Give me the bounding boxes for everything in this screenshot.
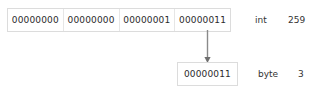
int-type-label: int xyxy=(255,16,267,25)
conversion-diagram: 00000000 00000000 00000001 00000011 int … xyxy=(0,0,321,98)
int-value-label: 259 xyxy=(288,16,305,25)
int-octet-cell-4: 00000011 xyxy=(175,9,230,31)
byte-value-label: 3 xyxy=(298,70,304,79)
int-bits-box: 00000000 00000000 00000001 00000011 xyxy=(7,8,231,32)
byte-bits-box: 00000011 xyxy=(177,62,238,86)
byte-octet-cell-1: 00000011 xyxy=(178,63,237,85)
int-octet-cell-3: 00000001 xyxy=(120,9,176,31)
int-octet-cell-1: 00000000 xyxy=(8,9,64,31)
down-arrow-icon xyxy=(198,30,218,64)
int-octet-cell-2: 00000000 xyxy=(64,9,120,31)
byte-type-label: byte xyxy=(258,70,278,79)
